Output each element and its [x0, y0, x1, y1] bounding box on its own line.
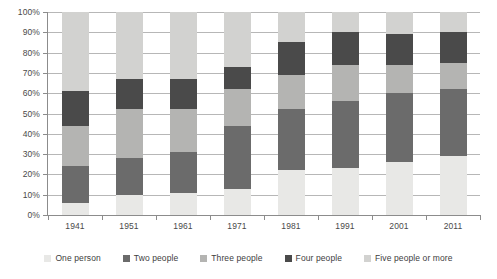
legend-swatch-icon — [44, 255, 51, 262]
bar-segment[interactable] — [170, 12, 197, 79]
bar-segment[interactable] — [386, 34, 413, 64]
bar-segment[interactable] — [116, 109, 143, 158]
bar-segment[interactable] — [440, 156, 467, 215]
bar-stack[interactable] — [62, 12, 89, 215]
bar-segment[interactable] — [170, 79, 197, 109]
bar-segment[interactable] — [332, 65, 359, 102]
x-axis-tick-mark — [264, 215, 265, 220]
bar-segment[interactable] — [62, 91, 89, 126]
x-axis-label: 1981 — [264, 221, 318, 237]
x-axis-tick-mark — [156, 215, 157, 220]
bar-segment[interactable] — [278, 170, 305, 215]
y-axis-tick-label: 40% — [23, 129, 40, 139]
legend-item[interactable]: One person — [44, 253, 100, 263]
y-axis-tick-label: 80% — [23, 48, 40, 58]
x-axis-tick-mark — [318, 215, 319, 220]
bar-segment[interactable] — [278, 75, 305, 110]
bar-stack[interactable] — [224, 12, 251, 215]
bar-segment[interactable] — [116, 195, 143, 215]
plot-wrapper: 0%10%20%30%40%50%60%70%80%90%100% 194119… — [0, 0, 497, 246]
bar-segment[interactable] — [116, 12, 143, 79]
x-axis-tick-mark — [426, 215, 427, 220]
bar-segment[interactable] — [332, 32, 359, 64]
bar-segment[interactable] — [62, 126, 89, 167]
bar-slot — [372, 12, 426, 215]
bar-stack[interactable] — [278, 12, 305, 215]
x-axis-label: 2001 — [372, 221, 426, 237]
legend-item[interactable]: Two people — [123, 253, 178, 263]
legend-label: Five people or more — [375, 253, 453, 263]
bar-segment[interactable] — [332, 101, 359, 168]
y-axis-tick-mark — [43, 12, 48, 13]
bar-stack[interactable] — [332, 12, 359, 215]
y-axis-tick-label: 50% — [23, 109, 40, 119]
bar-segment[interactable] — [440, 32, 467, 62]
bar-segment[interactable] — [332, 168, 359, 215]
bar-segment[interactable] — [332, 12, 359, 32]
y-axis-tick-label: 10% — [23, 190, 40, 200]
bar-slot — [210, 12, 264, 215]
y-axis-tick-label: 60% — [23, 88, 40, 98]
y-axis-tick-mark — [43, 134, 48, 135]
y-axis-tick-mark — [43, 154, 48, 155]
x-axis-label: 1991 — [318, 221, 372, 237]
bar-segment[interactable] — [170, 152, 197, 193]
bar-stack[interactable] — [116, 12, 143, 215]
bar-stack[interactable] — [440, 12, 467, 215]
y-axis-tick-mark — [43, 195, 48, 196]
y-axis-tick-mark — [43, 215, 48, 216]
stacked-bar-chart: 0%10%20%30%40%50%60%70%80%90%100% 194119… — [0, 0, 497, 279]
plot-area — [48, 12, 480, 215]
legend-swatch-icon — [285, 255, 292, 262]
bar-segment[interactable] — [170, 193, 197, 215]
bar-slot — [264, 12, 318, 215]
y-axis-tick-mark — [43, 73, 48, 74]
bar-segment[interactable] — [440, 63, 467, 89]
bar-segment[interactable] — [386, 93, 413, 162]
bar-segment[interactable] — [224, 89, 251, 126]
bar-segment[interactable] — [386, 12, 413, 34]
legend-swatch-icon — [123, 255, 130, 262]
chart-legend: One personTwo peopleThree peopleFour peo… — [0, 249, 497, 267]
y-axis-tick-mark — [43, 32, 48, 33]
bar-segment[interactable] — [278, 109, 305, 170]
x-axis-tick-mark — [480, 215, 481, 220]
legend-item[interactable]: Four people — [285, 253, 342, 263]
bar-segment[interactable] — [224, 126, 251, 189]
x-axis-tick-mark — [210, 215, 211, 220]
bar-segment[interactable] — [224, 12, 251, 67]
bar-slot — [426, 12, 480, 215]
bar-slot — [48, 12, 102, 215]
x-axis-tick-mark — [372, 215, 373, 220]
x-axis-labels: 19411951196119711981199120012011 — [48, 221, 480, 237]
bar-segment[interactable] — [278, 12, 305, 42]
bar-segment[interactable] — [440, 12, 467, 32]
bar-segment[interactable] — [224, 67, 251, 89]
y-axis-tick-label: 100% — [18, 7, 40, 17]
bar-segment[interactable] — [386, 162, 413, 215]
y-axis-tick-mark — [43, 174, 48, 175]
legend-swatch-icon — [200, 255, 207, 262]
bar-segment[interactable] — [278, 42, 305, 74]
bar-segment[interactable] — [386, 65, 413, 93]
bar-stack[interactable] — [386, 12, 413, 215]
legend-item[interactable]: Five people or more — [364, 253, 453, 263]
x-axis-label: 1951 — [102, 221, 156, 237]
x-axis-label: 2011 — [426, 221, 480, 237]
y-axis-tick-mark — [43, 114, 48, 115]
x-axis-label: 1971 — [210, 221, 264, 237]
bar-segment[interactable] — [116, 158, 143, 195]
legend-label: Four people — [296, 253, 342, 263]
x-axis-label: 1941 — [48, 221, 102, 237]
bar-segment[interactable] — [224, 189, 251, 215]
y-axis-tick-label: 90% — [23, 27, 40, 37]
y-axis-tick-label: 20% — [23, 169, 40, 179]
bar-segment[interactable] — [62, 166, 89, 203]
bar-segment[interactable] — [116, 79, 143, 109]
bar-segment[interactable] — [62, 12, 89, 91]
bar-segment[interactable] — [440, 89, 467, 156]
bar-segment[interactable] — [62, 203, 89, 215]
bar-segment[interactable] — [170, 109, 197, 152]
bar-stack[interactable] — [170, 12, 197, 215]
legend-item[interactable]: Three people — [200, 253, 262, 263]
